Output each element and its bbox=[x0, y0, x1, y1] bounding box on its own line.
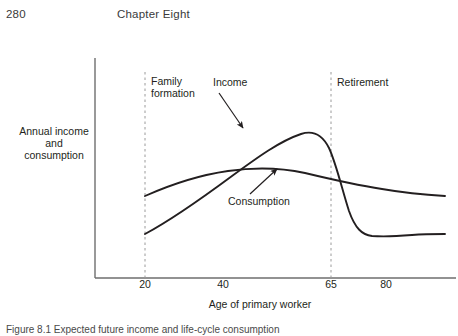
consumption-leader-arrow bbox=[250, 169, 277, 194]
life-cycle-chart: Annual income and consumption Age of pri… bbox=[0, 28, 458, 318]
income-leader-arrow bbox=[219, 93, 243, 128]
income-curve bbox=[145, 133, 445, 237]
x-tick-label-40: 40 bbox=[208, 278, 238, 290]
x-tick-label-80: 80 bbox=[371, 278, 401, 290]
annotation-income: Income bbox=[213, 77, 247, 89]
guide-lines bbox=[145, 72, 331, 278]
figure-caption: Figure 8.1 Expected future income and li… bbox=[6, 324, 456, 336]
chart-canvas bbox=[0, 28, 458, 318]
annotation-retirement: Retirement bbox=[337, 77, 388, 89]
consumption-curve bbox=[145, 169, 445, 196]
page-number: 280 bbox=[6, 8, 26, 20]
annotation-consumption: Consumption bbox=[228, 196, 290, 208]
x-tick-label-65: 65 bbox=[316, 278, 346, 290]
y-axis-title: Annual income and consumption bbox=[18, 125, 90, 161]
x-tick-label-20: 20 bbox=[130, 278, 160, 290]
annotation-family-formation: Family formation bbox=[151, 76, 195, 99]
running-head: Chapter Eight bbox=[117, 8, 190, 20]
page-header: 280 Chapter Eight bbox=[0, 8, 458, 28]
x-axis-title: Age of primary worker bbox=[150, 298, 370, 310]
